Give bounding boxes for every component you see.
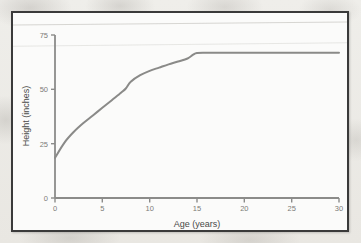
x-tick-label-5: 5 — [100, 204, 104, 213]
growth-chart: 75 50 25 0 0 5 10 15 20 25 30 Age (years… — [13, 13, 351, 234]
figure-frame: 75 50 25 0 0 5 10 15 20 25 30 Age (years… — [11, 11, 349, 232]
axis-lines — [55, 35, 339, 198]
x-tick-label-10: 10 — [146, 204, 154, 213]
x-tick-label-30: 30 — [335, 204, 343, 213]
y-tick-label-50: 50 — [40, 85, 48, 94]
y-tick-label-25: 25 — [40, 140, 48, 149]
x-tick-label-15: 15 — [193, 204, 201, 213]
y-axis-tick-labels: 75 50 25 0 — [40, 31, 48, 203]
x-tick-label-25: 25 — [288, 204, 296, 213]
x-tick-label-20: 20 — [240, 204, 248, 213]
y-tick-label-75: 75 — [40, 31, 48, 40]
y-tick-label-0: 0 — [44, 194, 48, 203]
y-axis-title: Height (inches) — [21, 86, 31, 147]
x-axis-title: Age (years) — [174, 219, 221, 229]
x-axis-tick-labels: 0 5 10 15 20 25 30 — [53, 204, 343, 213]
x-tick-label-0: 0 — [53, 204, 57, 213]
height-growth-line — [55, 53, 339, 158]
